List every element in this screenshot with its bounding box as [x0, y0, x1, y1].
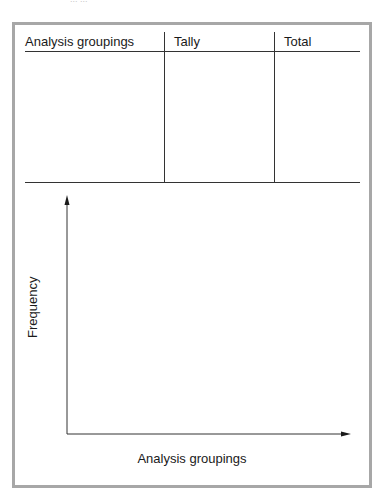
column-header-tally: Tally	[174, 34, 200, 49]
column-header-analysis-groupings: Analysis groupings	[25, 34, 134, 49]
column-header-total: Total	[284, 34, 311, 49]
graph-axes	[15, 183, 369, 485]
column-divider-2	[274, 32, 275, 183]
column-divider-1	[164, 32, 165, 183]
tally-table: Analysis groupings Tally Total	[25, 25, 360, 183]
y-axis-arrow-icon	[65, 195, 70, 205]
y-axis-label: Frequency	[25, 277, 40, 338]
clipped-caption: ... ...	[70, 0, 88, 4]
worksheet-frame: Analysis groupings Tally Total Frequency…	[12, 22, 372, 488]
x-axis-arrow-icon	[341, 432, 351, 437]
x-axis-label: Analysis groupings	[15, 451, 369, 466]
header-underline	[25, 51, 360, 52]
frequency-graph: Frequency Analysis groupings	[15, 183, 369, 485]
